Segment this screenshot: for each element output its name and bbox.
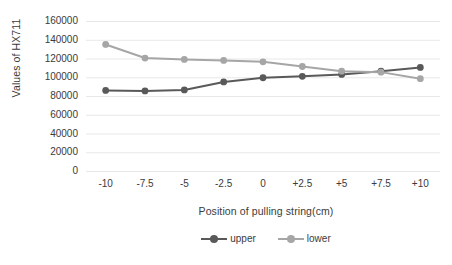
x-tick-label: -7.5 — [125, 178, 165, 189]
data-point — [417, 64, 424, 71]
data-point — [102, 87, 109, 94]
gridlines — [86, 22, 440, 172]
chart-container: Values of HX711 020000400006000080000100… — [0, 0, 452, 265]
x-tick-label: +7.5 — [361, 178, 401, 189]
data-point — [299, 73, 306, 80]
data-point — [260, 74, 267, 81]
data-point — [338, 68, 345, 75]
legend-item-upper[interactable]: upper — [201, 233, 256, 244]
data-point — [220, 79, 227, 86]
data-point — [417, 75, 424, 82]
data-point — [220, 57, 227, 64]
legend-label: upper — [230, 233, 256, 244]
data-point — [142, 87, 149, 94]
x-tick-label: +5 — [322, 178, 362, 189]
x-tick-label: -10 — [86, 178, 126, 189]
plot-area — [0, 0, 452, 265]
legend-marker-icon — [278, 234, 304, 243]
data-point — [142, 55, 149, 62]
data-point — [102, 41, 109, 48]
legend-item-lower[interactable]: lower — [278, 233, 331, 244]
data-point — [181, 87, 188, 94]
x-tick-label: -5 — [164, 178, 204, 189]
data-point — [181, 56, 188, 63]
x-tick-label: 0 — [243, 178, 283, 189]
data-point — [378, 69, 385, 76]
data-point — [260, 58, 267, 65]
x-tick-label: +10 — [400, 178, 440, 189]
chart-legend: upperlower — [86, 233, 446, 244]
series-layer — [102, 41, 423, 94]
data-point — [299, 63, 306, 70]
x-tick-label: -2.5 — [204, 178, 244, 189]
x-tick-label: +2.5 — [282, 178, 322, 189]
legend-marker-icon — [201, 234, 227, 243]
x-axis-title: Position of pulling string(cm) — [86, 205, 446, 217]
legend-label: lower — [307, 233, 331, 244]
series-upper — [102, 64, 423, 94]
